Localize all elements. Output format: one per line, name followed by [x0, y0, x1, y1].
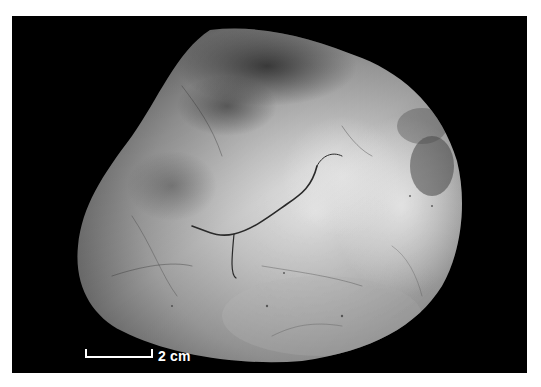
photo-frame: 2 cm — [12, 16, 527, 373]
scale-bar — [86, 349, 152, 357]
scale-bar-label: 2 cm — [158, 348, 191, 364]
specimen-image — [12, 16, 527, 373]
